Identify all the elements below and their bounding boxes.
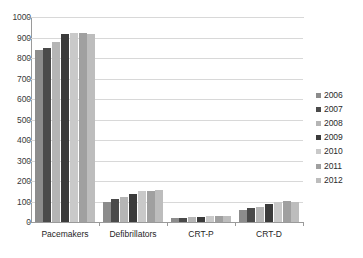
legend-swatch-icon-2011 [316, 164, 321, 169]
y-tick-label-700: 700 [3, 75, 31, 83]
bar-crt-d-2008 [256, 207, 264, 222]
legend-item-2009: 2009 [316, 131, 361, 145]
x-category-label-crt-d: CRT-D [235, 229, 303, 239]
bar-group-crt-p [167, 17, 235, 222]
x-tick-mark-3 [235, 222, 236, 226]
bar-pacemakers-2008 [52, 42, 60, 222]
bar-crt-d-2011 [283, 201, 291, 222]
legend-item-2006: 2006 [316, 88, 361, 102]
x-tick-mark-2 [167, 222, 168, 226]
bar-chart: 01002003004005006007008009001000 Pacemak… [0, 0, 363, 258]
bar-crt-p-2010 [206, 216, 214, 222]
bar-crt-p-2007 [179, 218, 187, 223]
bar-defibrillators-2012 [155, 190, 163, 222]
x-tick-mark-4 [303, 222, 304, 226]
x-category-label-pacemakers: Pacemakers [31, 229, 99, 239]
bar-crt-p-2006 [171, 218, 179, 222]
bar-pacemakers-2009 [61, 34, 69, 222]
bar-crt-p-2009 [197, 217, 205, 222]
y-tick-label-1000: 1000 [3, 13, 31, 21]
bar-crt-p-2008 [188, 217, 196, 222]
y-tick-label-600: 600 [3, 95, 31, 103]
legend-swatch-icon-2009 [316, 135, 321, 140]
plot-area [31, 17, 303, 222]
bar-pacemakers-2007 [43, 48, 51, 222]
bar-defibrillators-2009 [129, 194, 137, 222]
legend-swatch-icon-2010 [316, 149, 321, 154]
bar-crt-d-2009 [265, 204, 273, 222]
bar-crt-d-2010 [274, 202, 282, 223]
legend-swatch-icon-2008 [316, 121, 321, 126]
legend-label-2008: 2008 [324, 119, 343, 128]
x-category-label-crt-p: CRT-P [167, 229, 235, 239]
y-tick-mark-0 [28, 222, 31, 223]
legend-item-2007: 2007 [316, 102, 361, 116]
x-tick-mark-1 [99, 222, 100, 226]
y-axis-ticks: 01002003004005006007008009001000 [0, 0, 31, 258]
y-tick-label-500: 500 [3, 116, 31, 124]
bar-defibrillators-2011 [147, 191, 155, 222]
bar-pacemakers-2012 [87, 34, 95, 222]
y-tick-label-0: 0 [3, 218, 31, 226]
bar-pacemakers-2011 [79, 33, 87, 222]
legend-label-2011: 2011 [324, 162, 342, 171]
legend-label-2006: 2006 [324, 91, 343, 100]
y-tick-label-300: 300 [3, 157, 31, 165]
legend-swatch-icon-2007 [316, 107, 321, 112]
legend-item-2008: 2008 [316, 116, 361, 130]
bar-defibrillators-2008 [120, 197, 128, 222]
bar-group-pacemakers [31, 17, 99, 222]
bar-crt-p-2011 [215, 216, 223, 222]
bar-defibrillators-2007 [111, 199, 119, 222]
bar-defibrillators-2006 [103, 202, 111, 223]
bar-pacemakers-2006 [35, 50, 43, 222]
bar-crt-p-2012 [223, 216, 231, 222]
bar-crt-d-2006 [239, 210, 247, 222]
chart-legend: 2006200720082009201020112012 [316, 88, 361, 187]
legend-label-2012: 2012 [324, 176, 343, 185]
y-tick-label-400: 400 [3, 136, 31, 144]
bar-crt-d-2012 [291, 202, 299, 223]
y-tick-label-100: 100 [3, 198, 31, 206]
bar-crt-d-2007 [247, 208, 255, 222]
y-tick-label-800: 800 [3, 54, 31, 62]
y-tick-label-900: 900 [3, 34, 31, 42]
bar-group-defibrillators [99, 17, 167, 222]
bar-pacemakers-2010 [70, 33, 78, 222]
legend-item-2012: 2012 [316, 173, 361, 187]
legend-label-2009: 2009 [324, 133, 343, 142]
legend-swatch-icon-2012 [316, 178, 321, 183]
bar-group-crt-d [235, 17, 303, 222]
bar-defibrillators-2010 [138, 191, 146, 222]
legend-item-2010: 2010 [316, 145, 361, 159]
x-category-label-defibrillators: Defibrillators [99, 229, 167, 239]
y-tick-label-200: 200 [3, 177, 31, 185]
legend-label-2010: 2010 [324, 147, 343, 156]
legend-label-2007: 2007 [324, 105, 343, 114]
legend-item-2011: 2011 [316, 159, 361, 173]
legend-swatch-icon-2006 [316, 93, 321, 98]
